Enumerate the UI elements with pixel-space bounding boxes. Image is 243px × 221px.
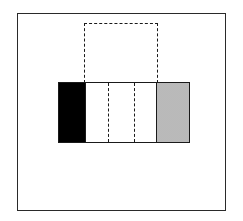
segment-divider bbox=[85, 83, 86, 142]
dashed-divider-left bbox=[108, 83, 109, 142]
dashed-rectangle bbox=[84, 23, 158, 83]
black-segment bbox=[59, 83, 85, 142]
segmented-bar bbox=[58, 82, 190, 143]
dashed-divider-right bbox=[134, 83, 135, 142]
gray-segment bbox=[156, 83, 189, 142]
